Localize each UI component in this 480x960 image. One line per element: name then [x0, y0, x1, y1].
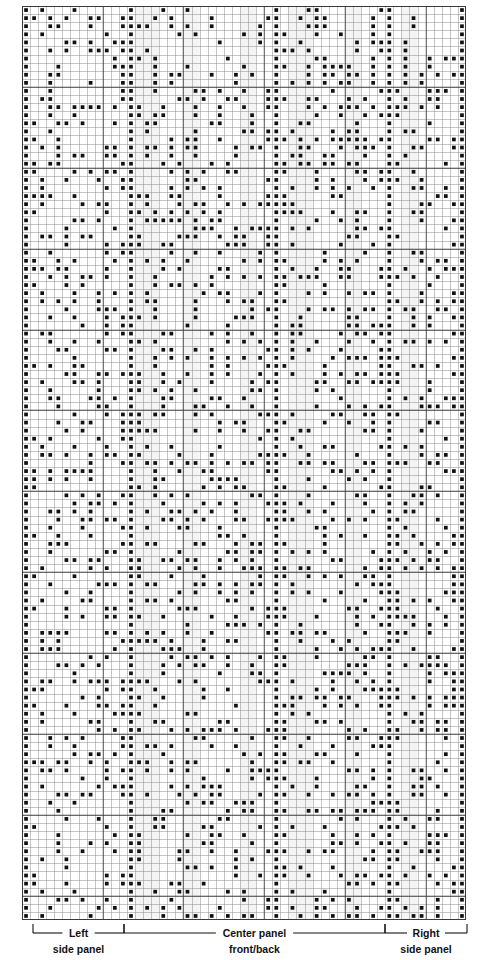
panel-bracket-left: Leftside panel [33, 924, 124, 955]
pattern-chart [22, 6, 466, 920]
panel-label-line1: Left [69, 927, 89, 939]
cropped-title-strip [0, 0, 480, 5]
panel-legend: Leftside panelCenter panelfront/backRigh… [0, 922, 480, 960]
panel-label-line1: Right [413, 927, 440, 939]
pattern-grid-canvas [22, 6, 466, 920]
panel-label-line1: Center panel [223, 927, 287, 939]
panel-legend-svg: Leftside panelCenter panelfront/backRigh… [0, 922, 480, 960]
panel-label-line2: side panel [400, 943, 451, 955]
panel-bracket-center: Center panelfront/back [124, 924, 385, 955]
panel-label-line2: front/back [229, 943, 280, 955]
panel-bracket-right: Rightside panel [385, 924, 467, 955]
panel-label-line2: side panel [53, 943, 104, 955]
